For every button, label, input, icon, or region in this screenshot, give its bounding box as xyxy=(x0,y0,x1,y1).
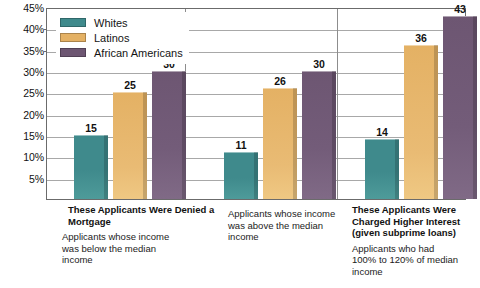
legend-label-latinos: Latinos xyxy=(94,32,129,44)
y-tick-label: 40% xyxy=(2,24,44,34)
y-tick-label: 45% xyxy=(2,3,44,13)
legend-item-latinos: Latinos xyxy=(60,30,183,45)
bar-whites-group2 xyxy=(224,152,258,199)
caption-body-1: Applicants whose income was below the me… xyxy=(62,231,222,266)
caption-title-3: These Applicants Were Charged Higher Int… xyxy=(352,204,478,239)
bar-whites-group1 xyxy=(74,135,108,199)
y-tick-label: 25% xyxy=(2,88,44,98)
y-tick-label: 35% xyxy=(2,46,44,56)
y-tick-label: 10% xyxy=(2,152,44,162)
caption-body-3: Applicants who had 100% to 120% of media… xyxy=(352,243,478,278)
legend-swatch-latinos xyxy=(60,33,86,42)
bar-value-whites-group1: 15 xyxy=(74,123,108,134)
caption-body-2: Applicants whose income was above the me… xyxy=(228,208,346,243)
legend-label-african-americans: African Americans xyxy=(94,47,183,59)
bar-value-latinos-group2: 26 xyxy=(263,76,297,87)
bar-latinos-group3 xyxy=(404,45,438,199)
bar-value-whites-group3: 14 xyxy=(365,127,399,138)
y-tick-label: 30% xyxy=(2,67,44,77)
y-tick-label: 20% xyxy=(2,110,44,120)
group-divider xyxy=(337,9,338,199)
bar-value-african-americans-group3: 43 xyxy=(443,4,477,15)
bar-whites-group3 xyxy=(365,139,399,199)
bar-african-americans-group1 xyxy=(152,71,186,199)
bar-latinos-group1 xyxy=(113,92,147,199)
y-tick-label: 15% xyxy=(2,131,44,141)
caption-group-1: These Applicants Were Denied a Mortgage … xyxy=(62,204,222,266)
bar-value-whites-group2: 11 xyxy=(224,140,258,151)
gridline xyxy=(47,116,465,117)
legend-label-whites: Whites xyxy=(94,17,128,29)
gridline xyxy=(47,94,465,95)
bar-latinos-group2 xyxy=(263,88,297,199)
legend-item-whites: Whites xyxy=(60,15,183,30)
bar-african-americans-group2 xyxy=(302,71,336,199)
bar-african-americans-group3 xyxy=(443,16,477,200)
bar-value-latinos-group3: 36 xyxy=(404,33,438,44)
bar-chart-figure: 45% 40% 35% 30% 25% 20% 15% 10% 5% 15 xyxy=(0,0,480,288)
caption-group-3: These Applicants Were Charged Higher Int… xyxy=(352,204,478,277)
legend-item-african-americans: African Americans xyxy=(60,45,183,60)
bar-value-latinos-group1: 25 xyxy=(113,80,147,91)
y-tick-label: 5% xyxy=(2,174,44,184)
legend-swatch-whites xyxy=(60,18,86,27)
bar-value-african-americans-group2: 30 xyxy=(302,59,336,70)
captions: These Applicants Were Denied a Mortgage … xyxy=(0,204,480,288)
legend-swatch-african-americans xyxy=(60,48,86,57)
gridline xyxy=(47,137,465,138)
gridline xyxy=(47,73,465,74)
caption-group-2: Applicants whose income was above the me… xyxy=(228,204,346,243)
legend: Whites Latinos African Americans xyxy=(56,12,189,64)
caption-title-1: These Applicants Were Denied a Mortgage xyxy=(68,204,222,227)
